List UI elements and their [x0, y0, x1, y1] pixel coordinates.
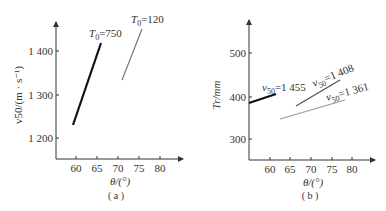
series-t0-120: [122, 29, 142, 80]
y-axis-label: Tr/mm: [210, 81, 222, 110]
x-tick-label: 60: [265, 163, 277, 175]
x-axis-label: θ/(°): [110, 175, 131, 188]
annotation-t0-120: T0=120: [131, 13, 164, 28]
x-tick-label: 60: [71, 162, 83, 174]
figure: 1 400 1 300 1 200 60 65 70 75 80 θ/(°) v…: [0, 0, 386, 211]
x-tick-label: 75: [327, 163, 339, 175]
y-tick-label: 300: [230, 133, 247, 145]
y-axis-label: v50/(m · s⁻¹): [12, 66, 25, 124]
y-tick-label: 500: [230, 47, 247, 59]
y-tick-label: 1 300: [28, 89, 53, 101]
y-tick-label: 400: [230, 91, 247, 103]
annotation-v50-1361: v50=1 361: [324, 80, 370, 106]
x-tick-label: 80: [347, 163, 359, 175]
x-tick-label: 70: [113, 162, 125, 174]
y-tick-label: 1 200: [28, 132, 53, 144]
chart-b: 500 400 300 60 65 70 75 80 θ/(°) Tr/mm v…: [210, 20, 375, 202]
x-tick-label: 65: [285, 163, 297, 175]
x-tick-label: 65: [92, 162, 104, 174]
annotation-v50-1455: v50=1 455: [262, 81, 306, 96]
caption-a: ( a ): [108, 190, 124, 202]
y-ticks: 1 400 1 300 1 200: [28, 45, 59, 144]
x-tick-label: 70: [306, 163, 318, 175]
series-t0-750: [73, 43, 101, 125]
caption-b: ( b ): [302, 190, 319, 202]
y-tick-label: 1 400: [28, 45, 53, 57]
x-tick-label: 80: [155, 162, 167, 174]
annotation-t0-750: T0=750: [89, 27, 122, 42]
chart-a: 1 400 1 300 1 200 60 65 70 75 80 θ/(°) v…: [12, 13, 183, 202]
x-tick-label: 75: [134, 162, 146, 174]
x-axis-label: θ/(°): [303, 176, 324, 189]
